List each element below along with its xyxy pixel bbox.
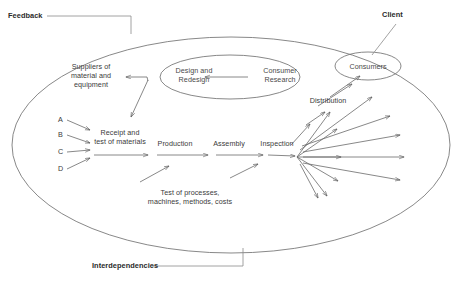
test-to-inspection-arrow xyxy=(230,164,258,178)
inspection-to-distribution-arrow xyxy=(268,155,295,156)
diagram-root: Feedback Client Interdependencies Suppli… xyxy=(0,0,460,284)
input-d-arrow xyxy=(67,158,90,169)
design-node-label: Design and Redesign xyxy=(163,66,225,84)
client-leader-line xyxy=(372,24,396,55)
input-c-arrow xyxy=(67,150,90,152)
test-to-production-arrow xyxy=(140,166,169,182)
consumer-research-node-label: Consumer Research xyxy=(249,66,311,84)
input-label-b: B xyxy=(58,130,68,139)
interdependencies-label: Interdependencies xyxy=(92,261,154,270)
interdependencies-leader-line xyxy=(152,248,243,266)
feedback-leader-line xyxy=(47,16,131,34)
feedback-label: Feedback xyxy=(8,11,48,20)
input-label-c: C xyxy=(58,147,68,156)
distribution-fan-outer xyxy=(300,76,404,180)
distribution-node-label: Distribution xyxy=(300,96,356,105)
assembly-node-label: Assembly xyxy=(202,139,256,148)
suppliers-node-label: Suppliers of material and equipment xyxy=(55,62,127,90)
client-label: Client xyxy=(382,10,422,19)
inspection-node-label: Inspection xyxy=(250,139,304,148)
test-of-processes-label: Test of processes, machines, methods, co… xyxy=(126,188,254,206)
input-label-d: D xyxy=(58,164,68,173)
design-to-receipt-arrow xyxy=(131,80,148,117)
input-label-a: A xyxy=(58,115,68,124)
production-node-label: Production xyxy=(145,139,205,148)
consumers-node-label: Consumers xyxy=(340,62,396,71)
